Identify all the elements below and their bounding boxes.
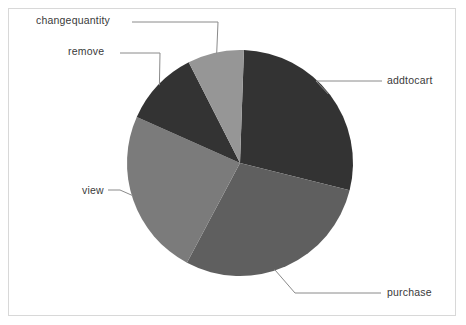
chart-screenshot: changequantity remove view addtocart pur… xyxy=(0,0,466,325)
leader-line-purchase xyxy=(275,270,381,294)
slice-label-changequantity: changequantity xyxy=(36,14,110,26)
slice-label-purchase: purchase xyxy=(387,286,432,298)
leader-line-addtocart xyxy=(316,81,382,94)
leader-line-changequantity xyxy=(132,22,218,53)
slice-label-view: view xyxy=(82,184,104,196)
slice-label-addtocart: addtocart xyxy=(387,74,433,86)
leader-line-view xyxy=(108,190,133,196)
slice-label-remove: remove xyxy=(68,45,104,57)
leader-line-remove xyxy=(120,53,160,85)
